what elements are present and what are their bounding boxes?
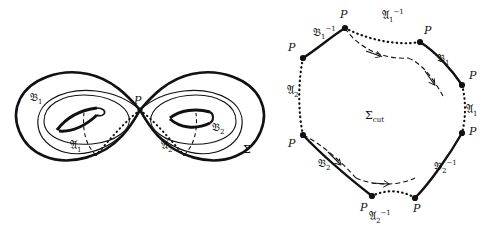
- label-edge-A2: 𝔄2: [287, 84, 298, 99]
- label-P-vertex: P: [360, 202, 367, 213]
- label-B1-surface: 𝔅1: [30, 92, 42, 106]
- octagon-vertex: [300, 132, 306, 138]
- label-P-vertex: P: [469, 126, 476, 137]
- label-edge-B2-inv: 𝔅2−1: [434, 160, 457, 175]
- label-P-surface: P: [134, 95, 141, 106]
- octagon-edge-A2-inv: [372, 191, 415, 198]
- figure-canvas: 𝔅1 𝔅2 𝔄1 𝔄2 P Σ P P P P P P P P 𝔅1−1 𝔄1−…: [0, 0, 503, 235]
- label-edge-B1-inv: 𝔅1−1: [313, 26, 336, 41]
- octagon-edge-A1: [462, 85, 465, 133]
- octagon-edge-B2: [303, 135, 372, 196]
- octagon-vertex: [459, 130, 465, 136]
- octagon-vertex: [412, 195, 418, 201]
- interior-arc-upper-right-arrow: [425, 71, 434, 84]
- label-P-vertex: P: [469, 70, 476, 81]
- octagon-edge-A2: [299, 58, 303, 135]
- label-edge-B1: 𝔅1: [437, 52, 449, 67]
- interior-arc-lower: [356, 178, 415, 184]
- label-P-vertex: P: [340, 9, 347, 20]
- interior-arc-lower-arrow: [372, 183, 388, 184]
- label-A1-surface: 𝔄1: [70, 140, 81, 154]
- label-edge-B2: 𝔅2: [318, 157, 330, 172]
- label-edge-A1-inv: 𝔄1−1: [382, 9, 404, 24]
- surface-panel: [16, 72, 264, 160]
- label-edge-A2-inv: 𝔄2−1: [369, 210, 391, 225]
- label-Sigma-cut: Σcut: [365, 110, 384, 124]
- octagon-vertex: [369, 193, 375, 199]
- label-Sigma-surface: Σ: [243, 144, 251, 155]
- label-P-vertex: P: [424, 25, 431, 36]
- label-A2-surface: 𝔄2: [161, 140, 172, 154]
- label-P-vertex: P: [288, 42, 295, 53]
- octagon-vertex: [417, 39, 423, 45]
- label-P-vertex: P: [288, 138, 295, 149]
- label-edge-A1: 𝔄1: [466, 103, 477, 118]
- surface-basepoint-dot: [137, 107, 142, 112]
- label-B2-surface: 𝔅2: [212, 122, 224, 136]
- octagon-vertex: [459, 82, 465, 88]
- label-P-vertex: P: [413, 203, 420, 214]
- octagon-vertex: [342, 25, 348, 31]
- octagon-vertex: [300, 55, 306, 61]
